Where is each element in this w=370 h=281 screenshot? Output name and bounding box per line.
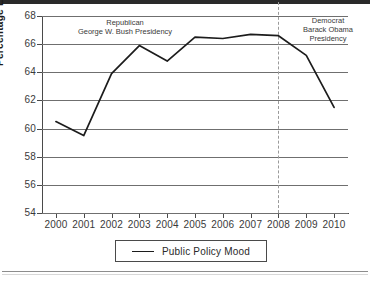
chart-legend[interactable]: Public Policy Mood: [115, 240, 267, 262]
democrat-obama-annotation-line-1: Democrat: [288, 16, 368, 25]
x-tick-label-2010: 2010: [316, 219, 352, 230]
democrat-obama-annotation: DemocratBarack ObamaPresidency: [288, 16, 368, 43]
legend-line-swatch: [132, 251, 154, 252]
x-tick-mark-2010: [334, 214, 335, 218]
top-border-band: [0, 0, 370, 4]
y-axis-tick-labels: 5456586062646668: [0, 0, 36, 214]
republican-bush-annotation-line-2: George W. Bush Presidency: [60, 27, 190, 36]
x-tick-mark-2007: [251, 214, 252, 218]
y-tick-label-58: 58: [24, 151, 36, 162]
democrat-obama-annotation-line-3: Presidency: [288, 34, 368, 43]
y-tick-label-60: 60: [24, 123, 36, 134]
y-tick-label-68: 68: [24, 10, 36, 21]
chart-figure: Percentage Liberal 5456586062646668 2000…: [0, 0, 370, 281]
series-line-public-policy-mood: [56, 34, 334, 135]
x-tick-mark-2009: [306, 214, 307, 218]
x-tick-mark-2005: [195, 214, 196, 218]
republican-bush-annotation: RepublicanGeorge W. Bush Presidency: [60, 18, 190, 36]
y-tick-mark-54: [37, 213, 42, 214]
y-tick-label-66: 66: [24, 38, 36, 49]
x-tick-mark-2003: [139, 214, 140, 218]
x-tick-mark-2000: [56, 214, 57, 218]
x-tick-mark-2001: [84, 214, 85, 218]
x-tick-mark-2004: [167, 214, 168, 218]
y-tick-label-62: 62: [24, 94, 36, 105]
y-tick-label-54: 54: [24, 207, 36, 218]
legend-label: Public Policy Mood: [162, 246, 250, 257]
line-series-public-policy-mood: [42, 16, 348, 213]
y-tick-label-56: 56: [24, 179, 36, 190]
x-tick-mark-2002: [112, 214, 113, 218]
footer-rule: [2, 271, 368, 272]
x-tick-mark-2006: [223, 214, 224, 218]
x-tick-mark-2008: [278, 214, 279, 218]
plot-area: [42, 16, 348, 213]
democrat-obama-annotation-line-2: Barack Obama: [288, 25, 368, 34]
footer-rule-secondary: [2, 274, 368, 275]
republican-bush-annotation-line-1: Republican: [60, 18, 190, 27]
y-tick-label-64: 64: [24, 66, 36, 77]
